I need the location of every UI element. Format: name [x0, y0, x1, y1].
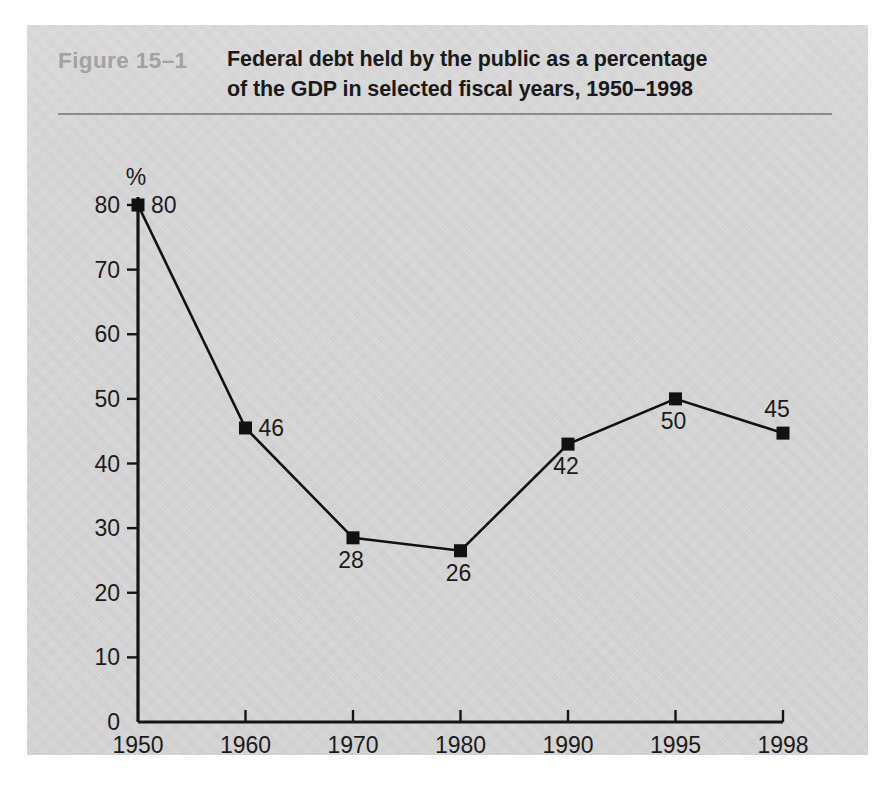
x-tick-label-1995: 1995 — [650, 732, 701, 755]
y-axis: 01020304050607080% — [94, 164, 146, 735]
y-tick-label-20: 20 — [94, 580, 120, 606]
figure-title: Federal debt held by the public as a per… — [227, 45, 827, 104]
data-label-1980: 26 — [446, 560, 472, 586]
y-tick-label-40: 40 — [94, 451, 120, 477]
y-tick-label-60: 60 — [94, 321, 120, 347]
debt-series — [132, 199, 790, 558]
x-axis: 1950196019701980199019951998 — [112, 710, 808, 755]
data-point-1970 — [347, 531, 360, 544]
y-tick-label-80: 80 — [94, 192, 120, 218]
chart-canvas: 01020304050607080% 195019601970198019901… — [27, 117, 868, 755]
y-tick-label-10: 10 — [94, 644, 120, 670]
figure-title-line-2: of the GDP in selected fiscal years, 195… — [227, 75, 827, 105]
y-tick-label-70: 70 — [94, 257, 120, 283]
data-point-1998 — [777, 427, 790, 440]
page-caption-sliver — [0, 782, 892, 792]
line-chart: 01020304050607080% 195019601970198019901… — [27, 117, 868, 755]
data-label-1970: 28 — [338, 547, 364, 573]
data-label-1950: 80 — [151, 192, 177, 218]
data-label-1990: 42 — [553, 453, 579, 479]
figure-header: Figure 15–1 Federal debt held by the pub… — [27, 25, 868, 117]
header-divider-rule — [58, 113, 832, 115]
data-label-1995: 50 — [661, 408, 687, 434]
x-tick-label-1990: 1990 — [542, 732, 593, 755]
x-tick-label-1970: 1970 — [327, 732, 378, 755]
figure-panel: Figure 15–1 Federal debt held by the pub… — [27, 25, 868, 755]
y-axis-unit-label: % — [126, 164, 146, 190]
data-label-1998: 45 — [764, 396, 790, 422]
y-tick-label-30: 30 — [94, 515, 120, 541]
figure-number-label: Figure 15–1 — [58, 48, 187, 74]
data-point-labels: 80462826425045 — [151, 192, 790, 586]
x-tick-label-1998: 1998 — [757, 732, 808, 755]
data-point-1980 — [454, 544, 467, 557]
x-tick-label-1960: 1960 — [220, 732, 271, 755]
data-point-1960 — [239, 421, 252, 434]
figure-title-line-1: Federal debt held by the public as a per… — [227, 45, 827, 75]
y-tick-label-50: 50 — [94, 386, 120, 412]
series-polyline — [138, 205, 783, 551]
data-label-1960: 46 — [259, 415, 285, 441]
data-point-1990 — [562, 438, 575, 451]
data-point-1950 — [132, 199, 145, 212]
data-point-1995 — [669, 392, 682, 405]
x-tick-label-1950: 1950 — [112, 732, 163, 755]
x-tick-label-1980: 1980 — [435, 732, 486, 755]
